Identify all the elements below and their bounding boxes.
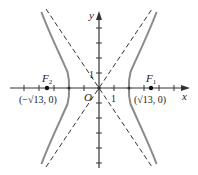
focus-f1-label: F1 [145,72,157,86]
y-tick-label-1: 1 [89,69,94,80]
x-tick-label-1: 1 [111,93,116,104]
vertex-right [127,86,130,89]
origin-point [97,86,101,90]
y-axis-label: y [88,9,94,21]
origin-label: O [84,91,92,103]
focus-f1-point [149,86,153,90]
focus-f2-label: F2 [41,72,53,86]
focus-f2-point [45,86,49,90]
y-axis-arrow-icon [96,11,102,20]
hyperbola-diagram: y x O 1 1 F1 F2 (√13, 0) (−√13, 0) [0,0,198,175]
x-axis-label: x [181,90,187,102]
focus-f2-coordinate: (−√13, 0) [19,94,57,106]
vertex-left [67,86,70,89]
focus-f1-coordinate: (√13, 0) [134,94,166,106]
